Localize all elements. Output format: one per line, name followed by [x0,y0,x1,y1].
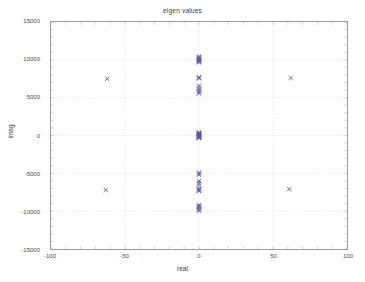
y-tick-label: -10000 [0,209,44,215]
data-marker [289,76,293,80]
data-points [104,54,293,213]
y-tick-label: 15000 [0,18,44,24]
data-marker [287,187,291,191]
data-marker [197,179,201,183]
chart-title: eigen values [0,7,365,14]
data-marker [104,188,108,192]
data-marker [105,77,109,81]
x-axis-label: real [0,265,365,272]
x-tick-label: 0 [197,253,200,259]
plot-canvas [51,22,347,249]
x-tick-label: -50 [120,253,129,259]
y-tick-label: -15000 [0,247,44,253]
x-tick-label: 50 [270,253,277,259]
y-tick-label: -5000 [0,171,44,177]
x-tick-label: 100 [343,253,353,259]
y-tick-label: 5000 [0,94,44,100]
data-marker [197,181,201,185]
y-tick-label: 10000 [0,56,44,62]
plot-area [50,21,348,250]
x-tick-label: -100 [44,253,56,259]
figure-container: eigen values 150001000050000-5000-10000-… [0,0,365,282]
y-axis-label: imag [7,112,14,152]
